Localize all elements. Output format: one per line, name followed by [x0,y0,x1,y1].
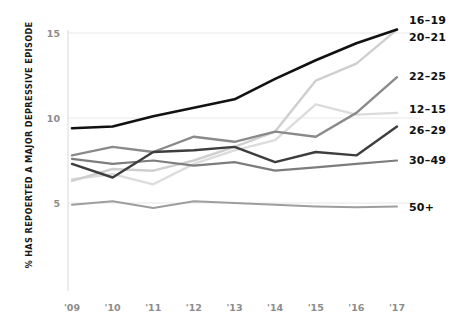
data-series-lines [72,30,397,209]
series-label-26-29: 26–29 [409,124,446,137]
x-tick-label: '12 [186,302,202,313]
series-label-22-25: 22–25 [409,70,446,83]
chart-container: % HAS REPOERTED A MAJOR DEPRESSIVE EPISO… [0,0,458,329]
y-tick-label: 15 [47,28,60,39]
series-labels: 16–1920–2122–2512–1526–2930–4950+ [409,14,446,214]
series-line-50+ [72,201,397,208]
x-tick-label: '10 [105,302,122,313]
x-tick-label: '11 [145,302,161,313]
gridlines [68,33,420,203]
series-label-20-21: 20–21 [409,31,446,44]
series-label-50+: 50+ [409,201,434,214]
series-line-20-21 [72,30,397,181]
x-tick-label: '15 [308,302,324,313]
x-tick-label: '09 [64,302,80,313]
line-chart-plot: 51015 '09'10'11'12'13'14'15'16'17 16–192… [0,0,458,329]
y-tick-labels: 51015 [47,28,61,209]
series-label-16-19: 16–19 [409,14,446,27]
series-label-12-15: 12–15 [409,103,446,116]
x-tick-label: '14 [267,302,284,313]
y-tick-label: 10 [47,113,61,124]
x-tick-label: '16 [348,302,365,313]
x-tick-labels: '09'10'11'12'13'14'15'16'17 [64,302,405,313]
series-line-22-25 [72,77,397,155]
x-tick-label: '17 [389,302,405,313]
x-tick-label: '13 [226,302,242,313]
y-tick-label: 5 [53,198,60,209]
series-label-30-49: 30–49 [409,154,446,167]
